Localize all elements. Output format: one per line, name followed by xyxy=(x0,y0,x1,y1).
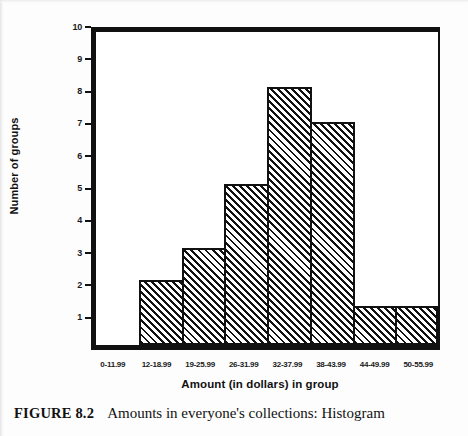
y-axis-tick-label: 8 xyxy=(77,87,85,96)
y-axis-tick-label: 9 xyxy=(77,55,85,64)
x-axis-title: Amount (in dollars) in group xyxy=(60,378,460,390)
x-axis-tick-label: 50-55.99 xyxy=(390,360,446,369)
histogram-bar xyxy=(96,343,141,345)
histogram-bars xyxy=(96,27,438,345)
histogram-bar xyxy=(395,306,438,345)
histogram-bar xyxy=(267,87,312,345)
histogram-bar xyxy=(310,122,355,345)
x-axis-tick-labels: 0-11.9912-18.9919-25.9926-31.9932-37.993… xyxy=(91,360,440,374)
y-axis-tick-label: 1 xyxy=(77,313,85,322)
histogram-bar xyxy=(224,184,269,346)
figure-caption: FIGURE 8.2Amounts in everyone's collecti… xyxy=(14,405,464,422)
figure-caption-text: Amounts in everyone's collections: Histo… xyxy=(107,405,385,421)
histogram-bar xyxy=(353,306,398,345)
y-axis-title: Number of groups xyxy=(8,96,20,236)
y-axis-tick-label: 2 xyxy=(77,281,85,290)
y-axis-tick-label: 7 xyxy=(77,119,85,128)
plot-area xyxy=(91,27,440,350)
y-axis-tick-label: 3 xyxy=(77,249,85,258)
histogram-bar xyxy=(139,280,184,345)
figure-container: 12345678910 Number of groups 0-11.9912-1… xyxy=(0,0,468,436)
y-axis-tick-label: 6 xyxy=(77,152,85,161)
histogram-bar xyxy=(182,248,227,345)
y-axis-tick-label: 5 xyxy=(77,184,85,193)
figure-label: FIGURE 8.2 xyxy=(14,405,94,421)
y-axis-tick-label: 4 xyxy=(77,216,85,225)
y-axis-tick-label: 10 xyxy=(72,23,85,32)
